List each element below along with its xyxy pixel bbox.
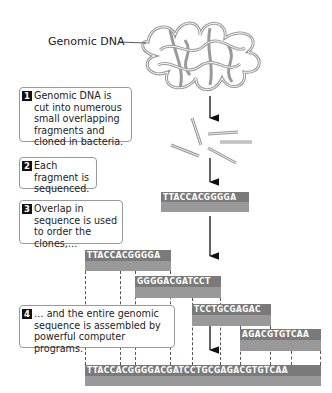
step-1-box: 1 Genomic DNA is cut into numerous small… bbox=[19, 87, 132, 142]
step-4-text: … and the entire genomic sequence is ass… bbox=[34, 308, 161, 354]
assembled-sequence-bar: TTACCACGGGGACGATCCTGCGAGACGTGTCAA bbox=[85, 365, 321, 386]
clone-4-bar: AGACGTGTCAA bbox=[240, 329, 321, 351]
step-1-number: 1 bbox=[22, 91, 32, 101]
sequenced-fragment-bar: TTACCACGGGGA bbox=[161, 192, 249, 212]
step-3-text: Overlap in sequence is used to order the… bbox=[34, 203, 117, 249]
step-1-text: Genomic DNA is cut into numerous small o… bbox=[34, 90, 123, 147]
step-3-box: 3 Overlap in sequence is used to order t… bbox=[19, 200, 123, 244]
genomic-dna-label: Genomic DNA bbox=[48, 35, 125, 48]
step-2-box: 2 Each fragment is sequenced. bbox=[19, 157, 97, 189]
alignment-guide bbox=[320, 351, 321, 365]
clone-2-bar: GGGGACGATCCT bbox=[135, 276, 221, 298]
dna-fragments-icon bbox=[171, 118, 252, 163]
step-4-box: 4 … and the entire genomic sequence is a… bbox=[19, 305, 175, 348]
step-2-number: 2 bbox=[22, 161, 32, 171]
step-3-number: 3 bbox=[22, 204, 32, 214]
alignment-guide bbox=[291, 351, 292, 365]
clone-3-bar: TCCTGCGAGAC bbox=[192, 304, 271, 326]
clone-1-bar: TTACCACGGGGA bbox=[85, 250, 171, 271]
step-4-number: 4 bbox=[22, 309, 32, 319]
step-2-text: Each fragment is sequenced. bbox=[34, 160, 89, 194]
